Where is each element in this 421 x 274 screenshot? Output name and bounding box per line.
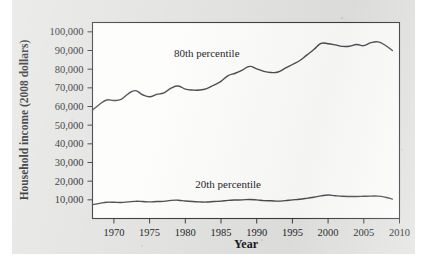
y-tick-label: 80,000 xyxy=(55,64,84,75)
y-tick-label: 20,000 xyxy=(55,176,84,187)
x-tick-label: 2010 xyxy=(389,227,410,238)
figure-panel: 10,00020,00030,00040,00050,00060,00070,0… xyxy=(12,0,415,254)
x-tick-label: 1985 xyxy=(211,227,232,238)
x-axis-tick-labels: 197019751980198519901995200020052010 xyxy=(103,227,410,238)
y-tick-label: 30,000 xyxy=(55,157,84,168)
x-tick-label: 1975 xyxy=(139,227,160,238)
x-tick-label: 2000 xyxy=(318,227,339,238)
x-axis-ticks xyxy=(114,219,400,224)
y-axis-ticks xyxy=(88,32,93,200)
x-axis-title: Year xyxy=(234,237,259,251)
y-axis-tick-labels: 10,00020,00030,00040,00050,00060,00070,0… xyxy=(49,26,83,205)
y-tick-label: 50,000 xyxy=(55,120,84,131)
y-tick-label: 40,000 xyxy=(55,138,84,149)
x-tick-label: 1990 xyxy=(246,227,267,238)
y-tick-label: 100,000 xyxy=(49,26,83,37)
y-tick-label: 10,000 xyxy=(55,194,84,205)
series-annotation-80th-percentile: 80th percentile xyxy=(174,47,240,59)
x-tick-label: 1995 xyxy=(282,227,303,238)
y-tick-label: 90,000 xyxy=(55,45,84,56)
x-tick-label: 1970 xyxy=(103,227,124,238)
y-axis-title: Household income (2008 dollars) xyxy=(18,39,31,200)
series-annotation-20th-percentile: 20th percentile xyxy=(195,178,261,190)
x-tick-label: 1980 xyxy=(175,227,196,238)
y-tick-label: 70,000 xyxy=(55,82,84,93)
x-tick-label: 2005 xyxy=(353,227,374,238)
y-tick-label: 60,000 xyxy=(55,101,84,112)
income-percentile-line-chart: 10,00020,00030,00040,00050,00060,00070,0… xyxy=(12,0,415,254)
